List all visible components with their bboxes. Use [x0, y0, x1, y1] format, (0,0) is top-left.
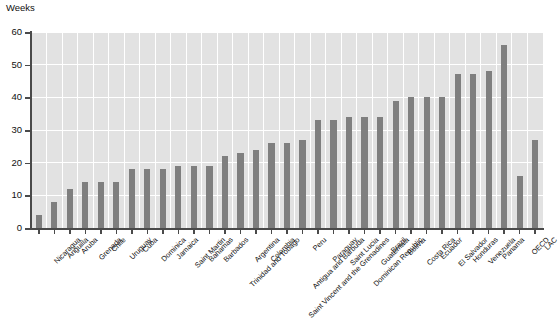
- bar[interactable]: [393, 101, 399, 228]
- y-axis-tick-label: 30: [0, 125, 22, 135]
- x-axis-tick: [193, 230, 195, 234]
- bar[interactable]: [439, 97, 445, 228]
- x-axis-tick: [147, 230, 149, 234]
- y-axis-tick: [25, 195, 30, 197]
- bar[interactable]: [424, 97, 430, 228]
- x-axis-tick: [410, 230, 412, 234]
- bar[interactable]: [98, 182, 104, 228]
- x-axis-tick: [100, 230, 102, 234]
- x-axis-tick: [302, 230, 304, 234]
- x-axis-tick: [364, 230, 366, 234]
- x-axis-tick: [240, 230, 242, 234]
- bar[interactable]: [455, 74, 461, 228]
- bar[interactable]: [113, 182, 119, 228]
- bar[interactable]: [51, 202, 57, 228]
- bar[interactable]: [268, 143, 274, 228]
- x-axis-tick: [333, 230, 335, 234]
- x-axis-tick: [534, 230, 536, 234]
- y-axis-tick: [25, 97, 30, 99]
- x-axis-tick: [348, 230, 350, 234]
- bar[interactable]: [486, 71, 492, 228]
- bar[interactable]: [253, 150, 259, 228]
- bar[interactable]: [206, 166, 212, 228]
- bar[interactable]: [315, 120, 321, 228]
- bar[interactable]: [82, 182, 88, 228]
- bars-layer: [31, 32, 543, 228]
- x-axis-tick: [131, 230, 133, 234]
- bar[interactable]: [67, 189, 73, 228]
- x-axis-tick: [178, 230, 180, 234]
- y-axis-tick: [25, 32, 30, 34]
- x-axis-tick: [379, 230, 381, 234]
- x-axis-tick: [85, 230, 87, 234]
- x-axis-tick: [426, 230, 428, 234]
- bar[interactable]: [330, 120, 336, 228]
- x-axis-tick: [162, 230, 164, 234]
- x-axis-tick: [54, 230, 56, 234]
- bar[interactable]: [532, 140, 538, 228]
- bar[interactable]: [144, 169, 150, 228]
- x-axis-tick: [317, 230, 319, 234]
- y-axis-line: [30, 31, 32, 229]
- y-axis-tick-label: 0: [0, 223, 22, 233]
- bar[interactable]: [284, 143, 290, 228]
- bar[interactable]: [160, 169, 166, 228]
- bar[interactable]: [299, 140, 305, 228]
- x-axis-tick: [457, 230, 459, 234]
- x-axis-tick: [271, 230, 273, 234]
- bar[interactable]: [237, 153, 243, 228]
- x-axis-tick: [255, 230, 257, 234]
- y-axis-tick-label: 20: [0, 158, 22, 168]
- bar[interactable]: [129, 169, 135, 228]
- bar[interactable]: [346, 117, 352, 228]
- x-axis-tick: [519, 230, 521, 234]
- bar[interactable]: [408, 97, 414, 228]
- x-axis-tick: [472, 230, 474, 234]
- y-axis-tick: [25, 163, 30, 165]
- bar[interactable]: [377, 117, 383, 228]
- y-axis-tick-label: 40: [0, 92, 22, 102]
- bar[interactable]: [191, 166, 197, 228]
- x-axis-tick: [209, 230, 211, 234]
- y-axis-tick-label: 50: [0, 60, 22, 70]
- bar[interactable]: [517, 176, 523, 228]
- y-axis-tick: [25, 228, 30, 230]
- x-axis-tick: [286, 230, 288, 234]
- bar[interactable]: [501, 45, 507, 228]
- bar[interactable]: [470, 74, 476, 228]
- x-axis-tick: [116, 230, 118, 234]
- x-axis-tick: [488, 230, 490, 234]
- y-axis-title: Weeks: [6, 2, 35, 13]
- bar[interactable]: [222, 156, 228, 228]
- y-axis-tick: [25, 65, 30, 67]
- x-axis-tick: [395, 230, 397, 234]
- x-axis-label[interactable]: Peru: [311, 236, 328, 253]
- y-axis-tick-label: 10: [0, 190, 22, 200]
- x-axis-tick: [441, 230, 443, 234]
- x-axis-tick: [503, 230, 505, 234]
- bar[interactable]: [36, 215, 42, 228]
- x-axis-tick: [69, 230, 71, 234]
- plot-area: [31, 32, 543, 228]
- x-axis-tick: [38, 230, 40, 234]
- bar[interactable]: [361, 117, 367, 228]
- y-axis-tick: [25, 130, 30, 132]
- x-axis-tick: [224, 230, 226, 234]
- y-axis-tick-label: 60: [0, 27, 22, 37]
- bar[interactable]: [175, 166, 181, 228]
